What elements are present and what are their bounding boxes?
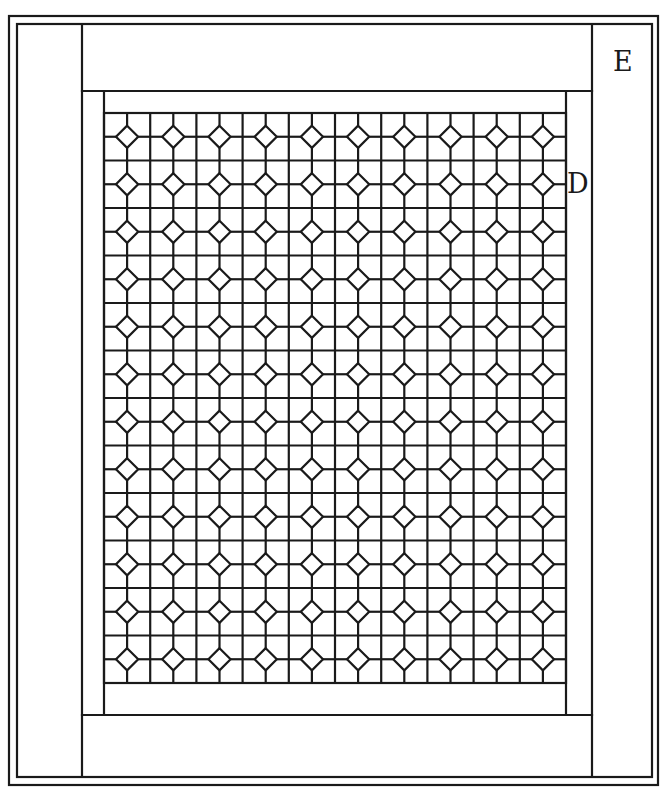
center-diamond (347, 268, 369, 290)
center-diamond (208, 553, 230, 575)
center-diamond (347, 173, 369, 195)
center-diamond (486, 363, 508, 385)
center-diamond (532, 363, 554, 385)
center-diamond (301, 506, 323, 528)
center-diamond (439, 268, 461, 290)
center-diamond (116, 316, 138, 338)
center-diamond (393, 173, 415, 195)
center-diamond (162, 601, 184, 623)
center-diamond (301, 126, 323, 148)
center-diamond (393, 601, 415, 623)
center-diamond (439, 411, 461, 433)
center-diamond (393, 363, 415, 385)
center-diamond (347, 601, 369, 623)
center-diamond (532, 458, 554, 480)
center-diamond (532, 506, 554, 528)
center-diamond (393, 316, 415, 338)
center-diamond (255, 126, 277, 148)
center-diamond (116, 648, 138, 670)
center-diamond (116, 458, 138, 480)
center-diamond (486, 601, 508, 623)
center-diamond (208, 411, 230, 433)
center-diamond (162, 268, 184, 290)
center-diamond (301, 173, 323, 195)
center-diamond (439, 126, 461, 148)
center-diamond (347, 553, 369, 575)
center-diamond (393, 506, 415, 528)
center-diamond (301, 411, 323, 433)
center-diamond (162, 221, 184, 243)
center-diamond (116, 601, 138, 623)
center-diamond (208, 506, 230, 528)
center-diamond (208, 648, 230, 670)
center-diamond (486, 126, 508, 148)
center-diamond (347, 458, 369, 480)
center-diamond (486, 316, 508, 338)
center-diamond (255, 268, 277, 290)
center-diamond (301, 553, 323, 575)
center-diamond (208, 458, 230, 480)
center-diamond (532, 126, 554, 148)
center-diamond (439, 316, 461, 338)
center-diamond (162, 553, 184, 575)
center-diamond (255, 221, 277, 243)
center-diamond (162, 648, 184, 670)
center-diamond (439, 363, 461, 385)
center-diamond (255, 553, 277, 575)
center-diamond (208, 316, 230, 338)
center-diamond (208, 363, 230, 385)
center-diamond (347, 648, 369, 670)
center-diamond (486, 173, 508, 195)
center-diamond (532, 316, 554, 338)
center-diamond (532, 601, 554, 623)
center-diamond (116, 173, 138, 195)
center-diamond (439, 173, 461, 195)
center-diamond (486, 648, 508, 670)
center-diamond (116, 221, 138, 243)
block-grid (104, 113, 566, 683)
center-diamond (208, 221, 230, 243)
center-diamond (532, 553, 554, 575)
center-diamond (162, 411, 184, 433)
center-diamond (301, 221, 323, 243)
border-e-label: E (613, 48, 633, 75)
center-diamond (301, 458, 323, 480)
center-diamond (255, 173, 277, 195)
center-diamond (439, 458, 461, 480)
center-diamond (116, 553, 138, 575)
center-diamond (347, 126, 369, 148)
center-diamond (301, 601, 323, 623)
center-diamond (532, 268, 554, 290)
center-diamond (439, 648, 461, 670)
center-diamond (301, 316, 323, 338)
outer-frame-line (9, 16, 658, 785)
center-diamond (532, 411, 554, 433)
center-diamond (208, 268, 230, 290)
center-diamond (116, 268, 138, 290)
center-diamond (116, 126, 138, 148)
center-diamond (255, 648, 277, 670)
center-diamond (208, 173, 230, 195)
center-diamond (439, 553, 461, 575)
quilt-diagram (0, 0, 660, 794)
center-diamond (347, 316, 369, 338)
center-diamond (162, 173, 184, 195)
center-diamond (393, 553, 415, 575)
center-diamond (162, 126, 184, 148)
center-diamond (486, 506, 508, 528)
center-diamond (532, 648, 554, 670)
center-diamond (347, 363, 369, 385)
center-diamond (255, 316, 277, 338)
center-diamond (162, 316, 184, 338)
border-d-label: D (567, 170, 589, 197)
center-diamond (486, 411, 508, 433)
center-diamond (486, 458, 508, 480)
center-diamond (255, 458, 277, 480)
center-diamond (486, 553, 508, 575)
center-diamond (393, 221, 415, 243)
center-diamond (255, 363, 277, 385)
center-diamond (255, 601, 277, 623)
center-diamond (162, 363, 184, 385)
center-diamond (116, 506, 138, 528)
center-diamond (393, 411, 415, 433)
